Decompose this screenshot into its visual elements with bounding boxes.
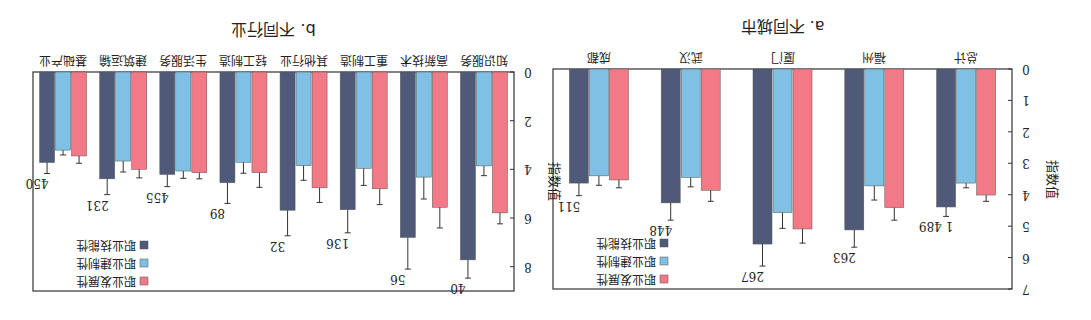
panel-b-bar bbox=[56, 72, 71, 150]
panel-b-title: b. 不同行业 bbox=[231, 20, 315, 39]
panel-b-bar bbox=[280, 72, 295, 210]
panel-b-bar bbox=[416, 72, 431, 177]
panel-b-sample-size: 32 bbox=[270, 239, 285, 253]
panel-b-bar bbox=[296, 72, 311, 166]
panel-b-bar bbox=[132, 72, 147, 169]
panel-a-category-label: 武汉 bbox=[679, 50, 703, 64]
panel-b-sample-size: 40 bbox=[450, 281, 465, 295]
panel-a-ytick: 1 bbox=[1022, 93, 1030, 107]
panel-b-category-label: 重工制造 bbox=[340, 53, 388, 67]
figure-rotated-180: 01234567指数值1 489总计263福州267厦门448武汉511成都职业… bbox=[0, 0, 1091, 320]
panel-a-ytick: 0 bbox=[1022, 62, 1030, 76]
panel-b-bar bbox=[72, 72, 87, 156]
panel-b-bar bbox=[236, 72, 251, 162]
panel-b-sample-size: 450 bbox=[26, 176, 49, 190]
panel-b-bar bbox=[372, 72, 387, 189]
panel-b-bar bbox=[252, 72, 267, 173]
panel-a-ytick: 5 bbox=[1022, 219, 1030, 233]
panel-b-category-label: 轻工制造 bbox=[219, 53, 267, 67]
panel-b-category-label: 知识服务 bbox=[460, 53, 508, 68]
panel-a-bar bbox=[753, 69, 772, 244]
panel-a-bar bbox=[885, 69, 904, 208]
panel-b-sample-size: 56 bbox=[390, 272, 405, 286]
panel-b-legend-label: 职业发展性 bbox=[76, 274, 136, 289]
panel-a-category-label: 成都 bbox=[587, 50, 611, 64]
panel-b-sample-size: 231 bbox=[86, 198, 109, 212]
panel-a-ytick: 6 bbox=[1022, 251, 1030, 265]
panel-b-ytick: 0 bbox=[524, 65, 532, 79]
panel-b-bar bbox=[356, 72, 371, 168]
panel-a-bar bbox=[773, 69, 792, 213]
panel-b-sample-size: 89 bbox=[210, 206, 225, 220]
panel-b-ytick: 4 bbox=[524, 162, 532, 176]
panel-b-sample-size: 455 bbox=[146, 190, 169, 204]
panel-a-category-label: 总计 bbox=[954, 50, 978, 64]
panel-b-category-label: 生活服务 bbox=[159, 53, 207, 68]
panel-b-category-label: 高新技术 bbox=[400, 53, 448, 68]
panel-b-bar bbox=[312, 72, 327, 188]
panel-b-ytick: 8 bbox=[524, 260, 532, 274]
panel-b-ytick: 2 bbox=[524, 114, 532, 128]
panel-a-bar bbox=[569, 69, 588, 183]
panel-b-bar bbox=[100, 72, 115, 179]
panel-b-category-label: 基础产业 bbox=[39, 53, 87, 67]
panel-a-legend-swatch bbox=[660, 257, 668, 265]
panel-a-bar bbox=[681, 69, 700, 177]
panel-a-bar bbox=[609, 69, 628, 180]
panel-a-sample-size: 263 bbox=[833, 250, 856, 264]
panel-a-category-label: 厦门 bbox=[771, 50, 795, 65]
panel-a-sample-size: 1 489 bbox=[919, 219, 953, 233]
panel-a-bar bbox=[589, 69, 608, 176]
panel-a-ytick: 7 bbox=[1022, 282, 1030, 296]
panel-a-bar bbox=[845, 69, 864, 230]
panel-a-bar bbox=[977, 69, 996, 195]
panel-b-bar bbox=[40, 72, 55, 163]
panel-b-bar bbox=[432, 72, 447, 207]
panel-a-bar bbox=[661, 69, 680, 203]
panel-b-sample-size: 136 bbox=[326, 236, 349, 250]
panel-a-bar bbox=[865, 69, 884, 186]
panel-b-bar bbox=[192, 72, 207, 173]
panel-b-category-label: 建筑运输 bbox=[99, 53, 147, 68]
panel-b-ytick: 6 bbox=[524, 211, 532, 225]
panel-a-ytick: 2 bbox=[1022, 125, 1030, 139]
panel-a-title: a. 不同城市 bbox=[741, 17, 825, 36]
panel-b-bar bbox=[460, 72, 475, 260]
panel-a-legend-label: 职业发展性 bbox=[596, 272, 656, 287]
panel-b-legend-swatch bbox=[140, 277, 148, 285]
panel-a-legend-label: 职业技能性 bbox=[596, 236, 656, 250]
panel-a-bar bbox=[957, 69, 976, 183]
panel-b-bar bbox=[400, 72, 415, 237]
panel-a-bar bbox=[793, 69, 812, 229]
panel-b-bar bbox=[492, 72, 507, 213]
panel-a-legend-label: 职业建制性 bbox=[596, 254, 656, 268]
panel-b-legend-swatch bbox=[140, 241, 148, 249]
panel-b-bar bbox=[340, 72, 355, 210]
panel-a-legend-swatch bbox=[660, 239, 668, 247]
panel-b-ylabel: 指数值 bbox=[547, 162, 562, 201]
panel-a-sample-size: 267 bbox=[741, 269, 764, 283]
panel-a-ylabel: 指数值 bbox=[1045, 160, 1060, 199]
panel-b-bar bbox=[220, 72, 235, 183]
panel-a-bar bbox=[937, 69, 956, 207]
panel-a-ytick: 3 bbox=[1022, 156, 1030, 170]
panel-a-ytick: 4 bbox=[1022, 188, 1030, 202]
panel-a-category-label: 福州 bbox=[862, 50, 886, 65]
panel-b-bar bbox=[176, 72, 191, 171]
panel-b-legend-label: 职业建制性 bbox=[76, 256, 136, 270]
panel-b-legend-label: 职业技能性 bbox=[76, 238, 136, 252]
panel-b-category-label: 其他行业 bbox=[280, 53, 328, 67]
panel-b-legend-swatch bbox=[140, 259, 148, 267]
panel-b-bar bbox=[160, 72, 175, 174]
panel-a-bar bbox=[701, 69, 720, 190]
panel-b-bar bbox=[116, 72, 131, 161]
panel-a-legend-swatch bbox=[660, 275, 668, 283]
panel-b-bar bbox=[476, 72, 491, 166]
bar-charts: 01234567指数值1 489总计263福州267厦门448武汉511成都职业… bbox=[0, 0, 1091, 320]
